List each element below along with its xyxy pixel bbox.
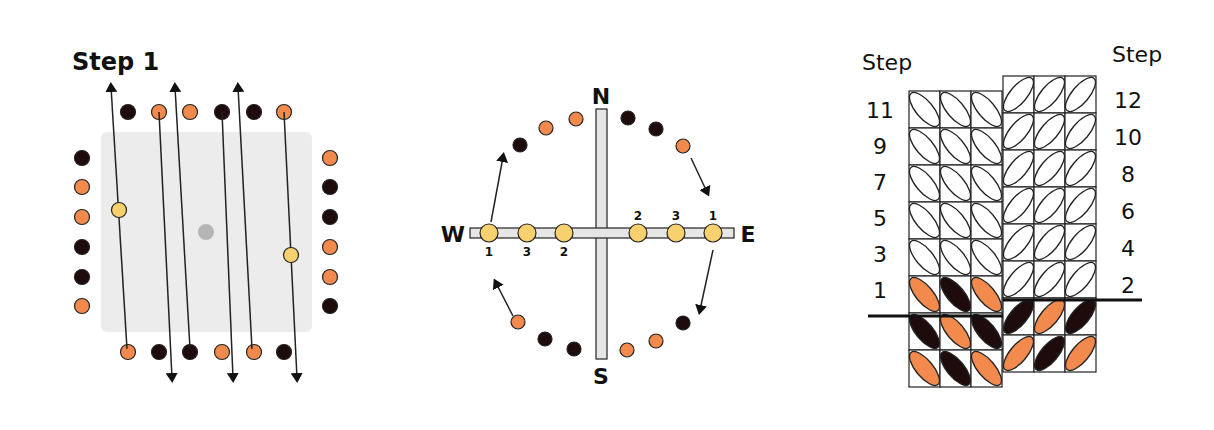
weaving-diagram: Step 1 N S W E [0, 0, 1214, 430]
svg-text:2: 2 [1121, 273, 1135, 298]
tablet-grid [904, 73, 1100, 390]
svg-text:3: 3 [672, 209, 680, 223]
panel-compass: N S W E 1 3 2 2 3 1 [441, 84, 756, 389]
svg-text:5: 5 [873, 206, 887, 231]
east-label: E [740, 222, 755, 247]
svg-text:3: 3 [523, 245, 531, 259]
svg-text:2: 2 [634, 209, 642, 223]
panel-step1: Step 1 [72, 48, 338, 378]
svg-text:1: 1 [709, 209, 717, 223]
svg-text:1: 1 [873, 278, 887, 303]
svg-text:7: 7 [873, 170, 887, 195]
west-label: W [441, 222, 465, 247]
right-step-heading: Step [1112, 42, 1162, 67]
north-label: N [592, 84, 610, 109]
svg-text:9: 9 [873, 134, 887, 159]
svg-text:11: 11 [866, 98, 894, 123]
svg-text:6: 6 [1121, 199, 1135, 224]
step1-title: Step 1 [72, 48, 159, 76]
center-hole [198, 224, 214, 240]
svg-text:12: 12 [1114, 88, 1142, 113]
south-label: S [593, 364, 609, 389]
svg-text:8: 8 [1121, 162, 1135, 187]
svg-text:1: 1 [485, 245, 493, 259]
svg-text:10: 10 [1114, 125, 1142, 150]
svg-text:3: 3 [873, 242, 887, 267]
svg-text:4: 4 [1121, 236, 1135, 261]
svg-text:2: 2 [560, 245, 568, 259]
panel-grid: Step Step 119753112108642 [862, 42, 1162, 390]
left-step-heading: Step [862, 50, 912, 75]
horizontal-bar [470, 228, 734, 238]
